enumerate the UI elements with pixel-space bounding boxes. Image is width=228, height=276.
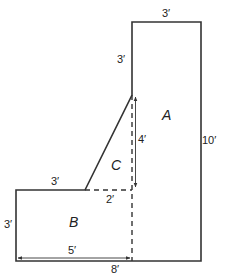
- label-upper-left-height: 3′: [117, 53, 125, 65]
- region-label-b: B: [69, 214, 78, 230]
- region-label-a: A: [161, 107, 171, 123]
- region-label-c: C: [111, 157, 122, 173]
- label-left-height: 3′: [4, 218, 12, 230]
- label-top-width: 3′: [162, 7, 170, 19]
- composite-shape-diagram: 3′ 3′ 10′ 4′ 3′ 2′ 3′ 5′ 8′ A B C: [0, 0, 228, 276]
- label-lower-top-width: 3′: [51, 175, 59, 187]
- shape-outline: [16, 22, 201, 261]
- label-inner-bottom-width: 5′: [68, 244, 76, 256]
- label-bottom-width: 8′: [111, 263, 119, 275]
- label-right-height: 10′: [202, 134, 216, 146]
- label-dashed-gap: 2′: [106, 193, 114, 205]
- label-inner-height: 4′: [138, 133, 146, 145]
